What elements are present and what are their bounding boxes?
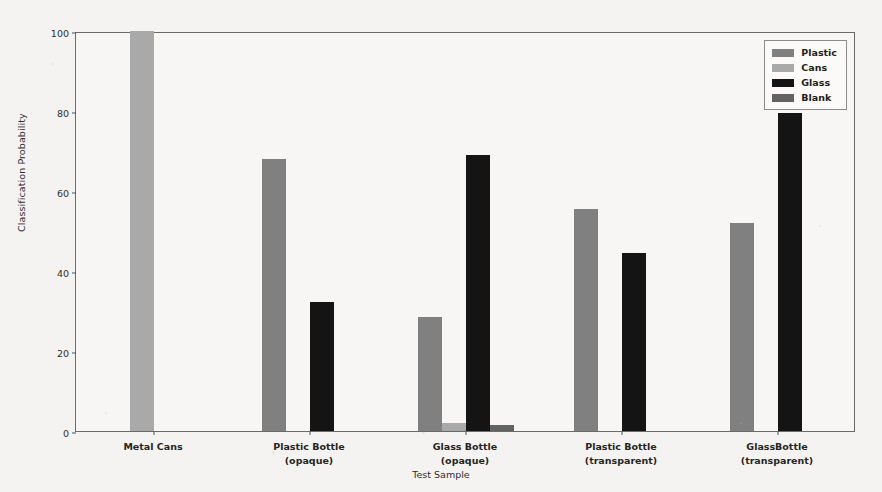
- y-tick-mark-40: [72, 273, 76, 274]
- bar-glass: [310, 302, 334, 431]
- chart-legend: PlasticCansGlassBlank: [764, 40, 847, 110]
- x-tick-mark: [154, 431, 155, 435]
- legend-item-glass[interactable]: Glass: [772, 77, 837, 88]
- legend-item-blank[interactable]: Blank: [772, 92, 837, 103]
- bar-group: [106, 33, 202, 431]
- y-tick-mark-100: [72, 33, 76, 34]
- bar-glass: [778, 113, 802, 431]
- y-axis-title: Classification Probability: [16, 113, 27, 232]
- plot-area: 020406080100 PlasticCansGlassBlank: [75, 32, 855, 432]
- bar-cans: [130, 31, 154, 431]
- bar-cans: [442, 423, 466, 431]
- bar-plastic: [574, 209, 598, 431]
- legend-swatch-icon: [772, 64, 794, 72]
- bar-glass: [466, 155, 490, 431]
- bar-group: [574, 33, 670, 431]
- x-axis-title: Test Sample: [0, 469, 882, 480]
- legend-label: Plastic: [801, 47, 837, 58]
- bar-plastic: [418, 317, 442, 431]
- legend-swatch-icon: [772, 49, 794, 57]
- x-tick-mark: [778, 431, 779, 435]
- legend-label: Cans: [801, 62, 827, 73]
- legend-label: Blank: [801, 92, 831, 103]
- bar-group: [262, 33, 358, 431]
- y-tick-mark-20: [72, 353, 76, 354]
- x-tick-label-line2: (transparent): [682, 454, 872, 468]
- legend-item-plastic[interactable]: Plastic: [772, 47, 837, 58]
- legend-label: Glass: [801, 77, 830, 88]
- x-tick-label-line1: GlassBottle: [682, 440, 872, 454]
- legend-item-cans[interactable]: Cans: [772, 62, 837, 73]
- x-tick-mark: [310, 431, 311, 435]
- y-tick-mark-60: [72, 193, 76, 194]
- y-tick-mark-0: [72, 433, 76, 434]
- bar-glass: [622, 253, 646, 431]
- bar-plastic: [730, 223, 754, 431]
- legend-swatch-icon: [772, 94, 794, 102]
- chart-page: Classification Probability 020406080100 …: [0, 0, 882, 492]
- y-tick-mark-80: [72, 113, 76, 114]
- bar-group: [418, 33, 514, 431]
- bar-plastic: [262, 159, 286, 431]
- x-tick-label: GlassBottle(transparent): [682, 440, 872, 467]
- x-tick-mark: [466, 431, 467, 435]
- bar-blank: [490, 425, 514, 431]
- legend-swatch-icon: [772, 79, 794, 87]
- x-tick-mark: [622, 431, 623, 435]
